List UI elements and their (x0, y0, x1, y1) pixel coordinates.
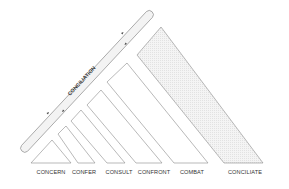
stage-label-confer: CONFER (72, 169, 96, 175)
stage-label-confront: CONFRONT (138, 169, 171, 175)
escalation-diagram: CONCILIATION (0, 0, 289, 189)
stage-label-concern: CONCERN (37, 169, 66, 175)
stage-label-combat: COMBAT (180, 169, 204, 175)
stage-label-consult: CONSULT (105, 169, 132, 175)
conciliate-strip (137, 27, 263, 163)
stage-label-conciliate: CONCILIATE (228, 169, 262, 175)
